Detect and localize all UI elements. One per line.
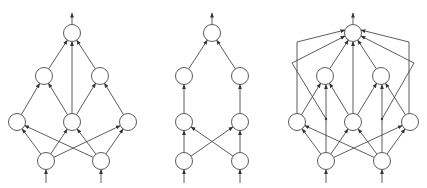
edge-l2b-to-top [77,40,96,69]
edge-l4b-to-l3a [305,126,375,158]
graph-skip-connections [289,13,419,183]
node-l2b [92,68,109,85]
edge-l4a-to-l3a [22,129,41,154]
node-l2a [176,68,193,85]
edge-l3b-to-l2b [76,83,95,114]
graph-crossed-connections [176,13,249,183]
node-top [64,25,81,42]
node-l3a [176,114,193,131]
edge-l3c-to-l2b [386,83,406,115]
edge-l3b-to-l2a [48,83,67,114]
edge-l2a-to-top [49,40,68,69]
node-l2b [373,68,390,85]
edge-l4b-to-l3b [77,129,96,154]
edge-l4b-to-l3a [25,126,94,158]
edge-l2b-to-top [358,40,377,69]
graph-dense-connections [9,13,137,183]
node-top [204,25,221,42]
node-l4b [93,153,110,170]
node-l4b [232,153,249,170]
node-l3b [232,114,249,131]
node-l3a [9,114,26,131]
node-top [345,25,362,42]
node-l2b [232,68,249,85]
edge-l4b-to-l3b [358,129,377,154]
node-l3c [402,114,419,131]
junction-dot [381,118,383,120]
edge-l4b-to-l3c [387,129,405,154]
junction-dot [325,118,327,120]
edge-l4a-to-l3a [302,129,321,154]
edge-l2b-to-top [217,40,236,69]
node-l3b [345,114,362,131]
edge-l3a-to-l2a [301,83,320,114]
node-l3c [120,114,137,131]
neural-network-diagrams [0,0,427,188]
edge-l2a-to-top [189,40,208,69]
node-l4a [176,153,193,170]
node-l2a [36,68,53,85]
node-l3a [289,114,306,131]
edge-l4b-to-l3c [106,129,123,154]
node-l4a [38,153,55,170]
node-l4a [318,153,335,170]
edge-l3b-to-l2a [329,83,348,114]
node-l3b [64,114,81,131]
node-l2a [317,68,334,85]
edge-l3a-to-l2a [21,83,39,114]
edge-l2a-to-top [330,40,349,69]
edge-l3b-to-l2b [357,83,376,114]
node-l4b [374,153,391,170]
edge-l3c-to-l2b [104,83,123,114]
